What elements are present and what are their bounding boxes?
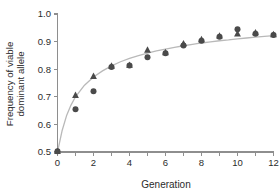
- x-axis: [58, 152, 274, 156]
- x-tick-label: 8: [199, 157, 204, 168]
- scatter-plot: 0.50.60.70.80.91.0 024681012 Generation …: [0, 0, 279, 192]
- y-tick-label: 1.0: [38, 8, 51, 19]
- x-tick-label: 10: [232, 157, 243, 168]
- y-tick-label: 0.5: [38, 146, 51, 157]
- y-axis-title-line-1: Frequency of viable: [4, 42, 15, 127]
- x-tick-label: 12: [268, 157, 279, 168]
- x-tick-label: 6: [163, 157, 168, 168]
- y-axis-title-line-2: dominant allele: [15, 51, 26, 116]
- data-point-circle: [91, 88, 97, 94]
- x-tick-label: 4: [127, 157, 132, 168]
- x-tick-label: 2: [91, 157, 96, 168]
- y-tick-label: 0.6: [38, 119, 51, 130]
- x-axis-title: Generation: [141, 179, 190, 190]
- data-points: [54, 26, 277, 154]
- data-point-circle: [145, 54, 151, 60]
- y-tick-labels: 0.50.60.70.80.91.0: [38, 8, 51, 157]
- x-tick-labels: 024681012: [55, 157, 279, 168]
- data-point-triangle: [144, 46, 151, 52]
- y-tick-label: 0.8: [38, 64, 51, 75]
- y-tick-label: 0.7: [38, 91, 51, 102]
- y-tick-label: 0.9: [38, 36, 51, 47]
- y-axis: [54, 14, 58, 152]
- chart-figure: 0.50.60.70.80.91.0 024681012 Generation …: [0, 0, 279, 192]
- y-axis-title: Frequency of viable dominant allele: [4, 42, 26, 127]
- data-point-triangle: [180, 40, 187, 46]
- data-point-circle: [73, 106, 79, 112]
- x-tick-label: 0: [55, 157, 60, 168]
